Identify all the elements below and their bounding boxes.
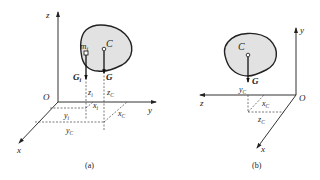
xc-label-b: xC bbox=[261, 99, 270, 109]
yc-label-b: yC bbox=[238, 85, 247, 95]
centroid-diagram: z y x O mi C Gi G zi zC xi xC yi yC (a) … bbox=[0, 0, 320, 180]
dash-xi-a bbox=[86, 102, 93, 108]
panel-b: y z x O C G yC xC zC (b) bbox=[199, 25, 306, 170]
zc-label-a: zC bbox=[106, 88, 114, 98]
force-g-label-b: G bbox=[252, 76, 259, 86]
zi-label: zi bbox=[87, 88, 93, 98]
yc-label-a: yC bbox=[65, 126, 74, 136]
x-axis-label-a: x bbox=[16, 145, 21, 155]
z-axis-label-a: z bbox=[45, 10, 50, 20]
origin-label-b: O bbox=[299, 93, 306, 103]
panel-a: z y x O mi C Gi G zi zC xi xC yi yC (a) bbox=[16, 10, 156, 170]
force-g-label-a: G bbox=[106, 72, 113, 82]
y-axis-label-b: y bbox=[299, 25, 304, 35]
yi-label: yi bbox=[63, 111, 70, 121]
zc-label-b: zC bbox=[257, 115, 265, 125]
centroid-label-b: C bbox=[238, 41, 245, 52]
x-axis-a bbox=[19, 102, 58, 143]
caption-a: (a) bbox=[85, 161, 94, 170]
force-gi-label: Gi bbox=[73, 72, 82, 83]
xc-label-a: xC bbox=[117, 109, 126, 119]
centroid-point-b bbox=[246, 53, 250, 57]
dash-xc-a bbox=[104, 102, 127, 122]
caption-b: (b) bbox=[252, 161, 262, 170]
origin-label-a: O bbox=[43, 92, 50, 102]
x-axis-label-b: x bbox=[260, 144, 265, 154]
y-axis-label-a: y bbox=[147, 105, 152, 115]
figure: z y x O mi C Gi G zi zC xi xC yi yC (a) … bbox=[0, 0, 320, 180]
centroid-label-a: C bbox=[106, 38, 113, 49]
z-axis-label-b: z bbox=[199, 98, 204, 108]
rigid-body-b bbox=[225, 33, 277, 76]
